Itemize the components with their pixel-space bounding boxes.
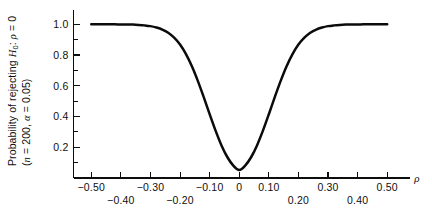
x-tick-label-upper: 0.50 bbox=[377, 181, 398, 193]
x-tick-label-upper: 0.30 bbox=[317, 181, 338, 193]
x-tick-label-upper: 0.10 bbox=[258, 181, 279, 193]
x-tick-label-lower: −0.40 bbox=[107, 194, 135, 206]
x-tick-group bbox=[91, 172, 387, 178]
x-axis-name: ρ bbox=[413, 172, 419, 184]
x-tick-label-group: −0.50−0.30−0.1000.100.300.50−0.40−0.200.… bbox=[77, 181, 397, 206]
y-axis-label: Probability of rejecting H0: ρ = 0 (n = … bbox=[6, 16, 32, 166]
x-tick-label-upper: −0.50 bbox=[77, 181, 105, 193]
y-tick-label: 0.8 bbox=[53, 49, 68, 61]
y-tick-label: 0.6 bbox=[53, 80, 68, 92]
power-curve-line bbox=[91, 24, 387, 170]
x-tick-label-upper: −0.30 bbox=[137, 181, 165, 193]
y-tick-label: 1.0 bbox=[53, 18, 68, 30]
x-tick-label-upper: −0.10 bbox=[196, 181, 224, 193]
power-curve-figure: Probability of rejecting H0: ρ = 0 (n = … bbox=[0, 0, 432, 214]
chart-canvas: Probability of rejecting H0: ρ = 0 (n = … bbox=[0, 0, 432, 214]
y-tick-label: 0.4 bbox=[53, 110, 68, 122]
y-tick-label: 0.2 bbox=[53, 141, 68, 153]
y-tick-label-group: 0.20.40.60.81.0 bbox=[53, 18, 68, 153]
y-axis-label-line1: Probability of rejecting H0: ρ = 0 bbox=[6, 16, 20, 166]
x-tick-label-lower: 0.40 bbox=[347, 194, 368, 206]
x-tick-label-lower: 0.20 bbox=[288, 194, 309, 206]
y-axis-label-line2: (n = 200, α = 0.05) bbox=[20, 79, 32, 166]
y-tick-group bbox=[74, 24, 80, 162]
x-tick-label-lower: −0.20 bbox=[166, 194, 194, 206]
x-tick-label-upper: 0 bbox=[236, 181, 242, 193]
